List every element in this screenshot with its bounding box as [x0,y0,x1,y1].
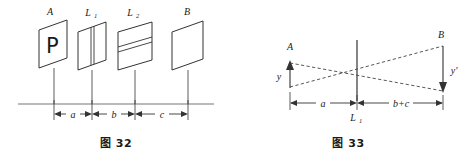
plate-L2-panel [118,22,152,70]
dim-bc-arrow-right [436,100,443,106]
object-height-y-label: y [276,71,282,82]
figure-33: A y B y' a [232,0,465,156]
figure-33-drawing: A y B y' a [232,0,465,156]
lens-label-L1: L [349,112,356,123]
plate-L2-label-subscript: 2 [136,12,140,19]
dim-bc-label: b+c [393,98,410,109]
plate-L1-label-subscript: 1 [94,12,97,19]
figure-32-caption-text: 图 32 [100,137,132,150]
image-arrow-B-label: B [438,29,444,40]
dim-c-arrow-right [181,111,188,117]
ray-bottom-to-top [290,46,443,87]
dim-a-arrow-left [290,100,297,106]
dim-a-label: a [321,98,326,109]
dim-b-label: b [112,109,117,120]
dim-a-arrow-right [350,100,357,106]
dim-a-arrow-left [54,111,61,117]
plate-B-group: B [172,6,203,104]
dim-c-arrow-left [135,111,142,117]
dim-a-label: a [71,109,76,120]
plate-A-label: A [46,6,54,17]
dim-c-label: c [160,109,165,120]
image-arrow-B-group: B y' [438,29,458,93]
dim-b-arrow-right [128,111,135,117]
figure-32-drawing: P A L 1 L 2 [0,0,232,156]
dimension-ticks [290,92,443,110]
plate-L2-label: L [126,7,133,18]
figure-32: P A L 1 L 2 [0,0,232,156]
dimension-b: b [92,108,135,120]
dimension-c: c [135,108,188,120]
plate-B-label: B [184,6,190,17]
plate-A-glyph-P: P [46,34,59,58]
dimension-a: a [290,97,357,109]
object-arrow-A-label: A [286,41,294,52]
ray-bundle [290,46,443,91]
object-arrow-A-head [286,60,294,70]
object-arrow-A-group: A y [276,41,294,88]
plate-L1-label: L [84,7,91,18]
plate-L2-group: L 2 [118,7,152,104]
ray-top-to-bottom [290,63,443,91]
dimension-bc: b+c [357,97,443,109]
dim-a-arrow-right [85,111,92,117]
dim-b-arrow-left [92,111,99,117]
plate-L1-group: L 1 [78,7,106,104]
figure-pair-container: P A L 1 L 2 [0,0,465,156]
figure-32-caption: 图 32 [0,134,232,150]
plate-B-panel [172,21,203,70]
image-arrow-B-head [439,82,447,93]
lens-label-group: L 1 [349,112,362,124]
figure-33-caption-text: 图 33 [332,137,364,150]
figure-33-caption: 图 33 [232,134,465,150]
dimension-a: a [54,108,92,120]
plate-A-group: P A [39,6,67,104]
dim-bc-arrow-left [357,100,364,106]
image-height-yprime-label: y' [450,65,458,76]
plate-L1-panel [78,22,106,70]
lens-label-L1-subscript: 1 [359,117,362,124]
